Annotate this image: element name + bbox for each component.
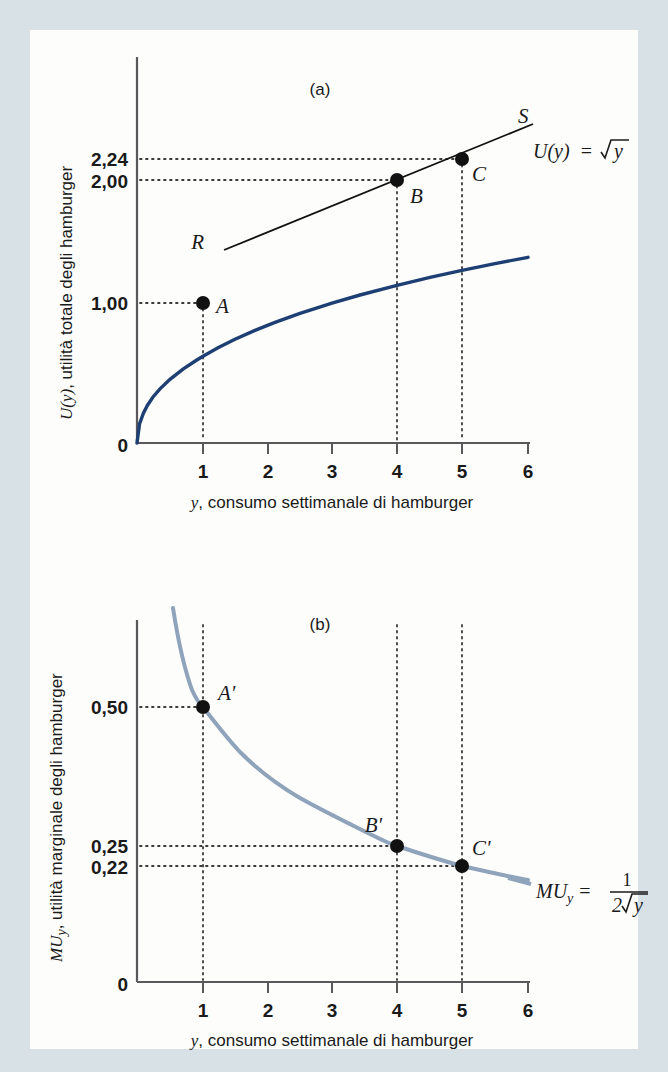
panel-b-xtick-3: 3 (327, 1000, 338, 1021)
panel-b-eq-lhs: MU (535, 880, 569, 902)
panel-a-ytick-100: 1,00 (91, 293, 128, 314)
panel-a-x-axis-title: y, consumo settimanale di hamburger (189, 493, 474, 512)
panel-a-eq-radicand: y (612, 140, 623, 163)
panel-b-point-A-prime (196, 700, 210, 714)
panel-a-xtick-2: 2 (263, 461, 274, 482)
panel-a-tag: (a) (310, 80, 331, 99)
panel-a-xtick-4: 4 (392, 461, 403, 482)
panel-b-y-axis-title: MUy, utilità marginale degli hamburger (47, 673, 69, 963)
panel-a: (a) (57, 57, 629, 512)
panel-b-eq-denominator-radicand: y (632, 894, 643, 917)
panel-b-eq-denominator-coef: 2 (612, 894, 622, 916)
panel-a-point-A (196, 296, 210, 310)
panel-a-point-B (390, 173, 404, 187)
figure-utility-curves: (a) (0, 0, 668, 1072)
panel-a-xtick-6: 6 (523, 461, 534, 482)
panel-b-x-axis-title-text: , consumo settimanale di hamburger (198, 1031, 473, 1050)
panel-a-eq-lhs: U(y) (533, 140, 570, 163)
panel-b-vertical-guides (203, 625, 462, 980)
panel-a-utility-curve (137, 257, 528, 443)
panel-a-xtick-3: 3 (327, 461, 338, 482)
panel-b-ytick-022: 0,22 (91, 857, 128, 878)
panel-a-xtick-5: 5 (457, 461, 468, 482)
panel-b-ytick-050: 0,50 (91, 697, 128, 718)
panel-b-xtick-4: 4 (392, 1000, 403, 1021)
panel-b-xtick-5: 5 (457, 1000, 468, 1021)
panel-b-eq-lhs-group: MUy= (535, 880, 591, 906)
panel-a-y-axis-title-var: U(y) (57, 389, 76, 420)
panel-b-point-C-prime (455, 859, 469, 873)
panel-b-xtick-1: 1 (198, 1000, 209, 1021)
panel-a-eq-sign: = (581, 140, 592, 162)
panel-b-tag: (b) (310, 615, 331, 634)
panel-b-origin-label: 0 (117, 974, 128, 995)
panel-b-label-A-prime: A' (216, 681, 236, 705)
panel-a-curve-helper (138, 310, 204, 443)
panel-b-xtick-2: 2 (263, 1000, 274, 1021)
panel-a-tangent-line (224, 124, 533, 250)
panel-a-ytick-224: 2,24 (91, 149, 128, 170)
panel-b-label-B-prime: B' (365, 813, 383, 837)
panel-a-xtick-1: 1 (198, 461, 209, 482)
panel-a-x-ticks (203, 443, 528, 454)
panel-b-eq-sign: = (579, 880, 590, 902)
panel-a-ytick-200: 2,00 (91, 171, 128, 192)
svg-text:U(y) =: U(y) = (533, 140, 592, 163)
panel-b-x-ticks (203, 982, 528, 993)
panel-a-x-axis-title-text: , consumo settimanale di hamburger (198, 493, 473, 512)
panel-a-vertical-guides (203, 159, 462, 441)
panel-b-point-B-prime (390, 839, 404, 853)
panel-b-xtick-6: 6 (523, 1000, 534, 1021)
panel-a-label-R: R (190, 230, 204, 254)
panel-b-y-axis-title-text: , utilità marginale degli hamburger (47, 673, 66, 929)
panel-b-label-C-prime: C' (472, 836, 491, 860)
panel-a-y-axis-title: U(y), utilità totale degli hamburger (57, 165, 76, 420)
panel-b-x-axis-title-var: y (189, 1031, 199, 1050)
panel-a-origin-label: 0 (117, 435, 128, 456)
panel-b-eq-lhs-sub: y (565, 891, 574, 906)
panel-a-label-A: A (214, 294, 229, 318)
panel-b-horizontal-guides (140, 707, 462, 866)
panel-b-ytick-025: 0,25 (91, 836, 128, 857)
panel-b: (b) A' (47, 608, 648, 1050)
panel-b-y-axis-title-var: MU (47, 934, 66, 963)
panel-a-label-B: B (410, 184, 423, 208)
panel-a-y-axis-title-text: , utilità totale degli hamburger (57, 165, 76, 388)
panel-a-curve-equation: U(y) = y (533, 140, 629, 163)
panel-a-point-C (455, 152, 469, 166)
panel-a-label-C: C (472, 162, 487, 186)
panel-a-x-axis-title-var: y (189, 493, 199, 512)
panel-b-eq-numerator: 1 (623, 870, 632, 890)
panel-b-x-axis-title: y, consumo settimanale di hamburger (189, 1031, 474, 1050)
panel-b-curve-equation: MUy= 1 2 y (535, 870, 648, 917)
panel-a-label-S: S (518, 104, 529, 128)
